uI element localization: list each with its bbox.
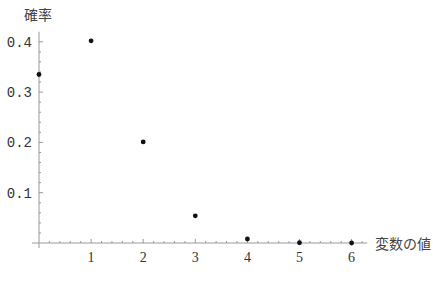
- x-tick-label: 4: [244, 250, 251, 265]
- data-point: [141, 139, 146, 144]
- axes: 1234560.10.20.30.4: [7, 32, 367, 265]
- y-tick-label: 0.4: [7, 35, 32, 51]
- data-point: [193, 213, 198, 218]
- x-tick-label: 3: [192, 250, 199, 265]
- scatter-chart: 確率 変数の値 1234560.10.20.30.4: [0, 0, 433, 296]
- x-tick-label: 2: [140, 250, 147, 265]
- x-tick-label: 6: [348, 250, 355, 265]
- data-point: [245, 237, 250, 242]
- data-point: [89, 38, 94, 43]
- y-tick-label: 0.2: [7, 135, 32, 151]
- x-tick-label: 1: [88, 250, 95, 265]
- y-tick-label: 0.3: [7, 85, 32, 101]
- x-tick-label: 5: [296, 250, 303, 265]
- y-axis-title: 確率: [24, 7, 52, 23]
- data-point: [349, 241, 354, 246]
- data-point: [297, 240, 302, 245]
- data-points: [37, 38, 354, 245]
- y-tick-label: 0.1: [7, 186, 32, 202]
- data-point: [37, 72, 42, 77]
- x-axis-title: 変数の値: [375, 236, 431, 252]
